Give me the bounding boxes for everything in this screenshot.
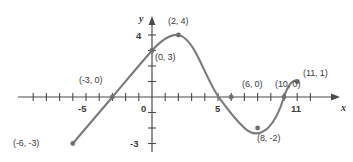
y-axis-label: y bbox=[139, 14, 143, 24]
x-axis-arrow bbox=[331, 94, 340, 101]
point-label-11-1: (11, 1) bbox=[303, 69, 328, 78]
point-neg6-neg3 bbox=[70, 141, 75, 146]
point-label-6-0: (6, 0) bbox=[242, 80, 262, 89]
point-label-10-0: (10, 0) bbox=[275, 80, 300, 89]
point-label-2-4: (2, 4) bbox=[168, 17, 188, 26]
point-label-8-neg2: (8, -2) bbox=[257, 134, 280, 143]
x-tick-label-neg5: -5 bbox=[78, 104, 86, 114]
x-tick-label-11: 11 bbox=[291, 104, 301, 114]
point-neg3-0 bbox=[110, 95, 115, 100]
x-axis-label: x bbox=[341, 103, 346, 113]
point-label-0-3: (0, 3) bbox=[155, 53, 175, 62]
y-axis-arrow bbox=[149, 16, 156, 25]
x-tick-label-0: 0 bbox=[141, 104, 146, 114]
point-10-0 bbox=[282, 95, 287, 100]
point-0-3 bbox=[150, 48, 155, 53]
point-2-4 bbox=[176, 33, 181, 38]
marked-points bbox=[70, 33, 299, 146]
y-tick-label-4: 4 bbox=[136, 31, 141, 41]
point-6-0 bbox=[229, 95, 234, 100]
point-label-neg3-0: (-3, 0) bbox=[79, 76, 102, 85]
function-curve bbox=[73, 35, 297, 144]
graph-figure: y x -5 0 5 11 4 -3 (-6, -3) (-3, 0) (0, … bbox=[0, 0, 353, 162]
x-tick-label-5: 5 bbox=[215, 104, 220, 114]
point-8-neg2 bbox=[255, 126, 260, 131]
point-label-neg6-neg3: (-6, -3) bbox=[13, 139, 39, 148]
y-tick-label-neg3: -3 bbox=[130, 139, 138, 149]
